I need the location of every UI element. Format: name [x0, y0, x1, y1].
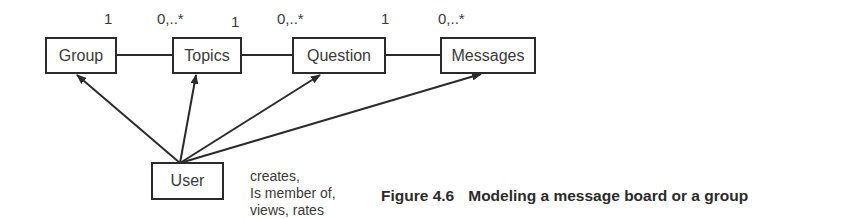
entity-topics: Topics: [172, 37, 242, 74]
user-relations-note: creates, Is member of, views, rates: [250, 168, 336, 219]
entity-group: Group: [45, 37, 117, 74]
multiplicity-topics-question-right: 0,..*: [277, 10, 304, 27]
arrow-user-to-messages: [180, 74, 481, 163]
multiplicity-group-topics-left: 1: [104, 10, 112, 27]
figure-caption: Figure 4.6Modeling a message board or a …: [381, 187, 748, 205]
multiplicity-question-messages-right: 0,..*: [438, 10, 465, 27]
arrow-user-to-question: [180, 75, 320, 163]
multiplicity-question-messages-left: 1: [381, 10, 389, 27]
note-line: creates,: [250, 168, 336, 185]
multiplicity-group-topics-right: 0,..*: [157, 10, 184, 27]
entity-messages: Messages: [440, 37, 536, 74]
entity-question: Question: [292, 37, 386, 74]
entity-user: User: [151, 162, 224, 200]
note-line: views, rates: [250, 202, 336, 219]
arrow-user-to-group: [77, 75, 180, 163]
figure-title: Modeling a message board or a group: [468, 187, 748, 204]
note-line: Is member of,: [250, 185, 336, 202]
arrow-user-to-topics: [180, 75, 196, 163]
figure-number: Figure 4.6: [381, 187, 454, 204]
multiplicity-topics-question-left: 1: [231, 13, 239, 30]
